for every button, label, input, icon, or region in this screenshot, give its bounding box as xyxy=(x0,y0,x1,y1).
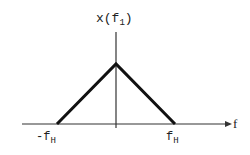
x-axis-label: f xyxy=(233,116,237,132)
y-axis-label: x(f1) xyxy=(96,11,133,28)
tick-label-pos-fh: fH xyxy=(166,130,179,146)
tick-label-neg-fh: -fH xyxy=(36,130,56,146)
x-axis-arrow-icon xyxy=(225,121,232,127)
